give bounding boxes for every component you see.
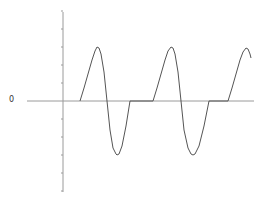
- y-tick-label-zero: 0: [9, 95, 14, 105]
- line-chart: [0, 0, 272, 203]
